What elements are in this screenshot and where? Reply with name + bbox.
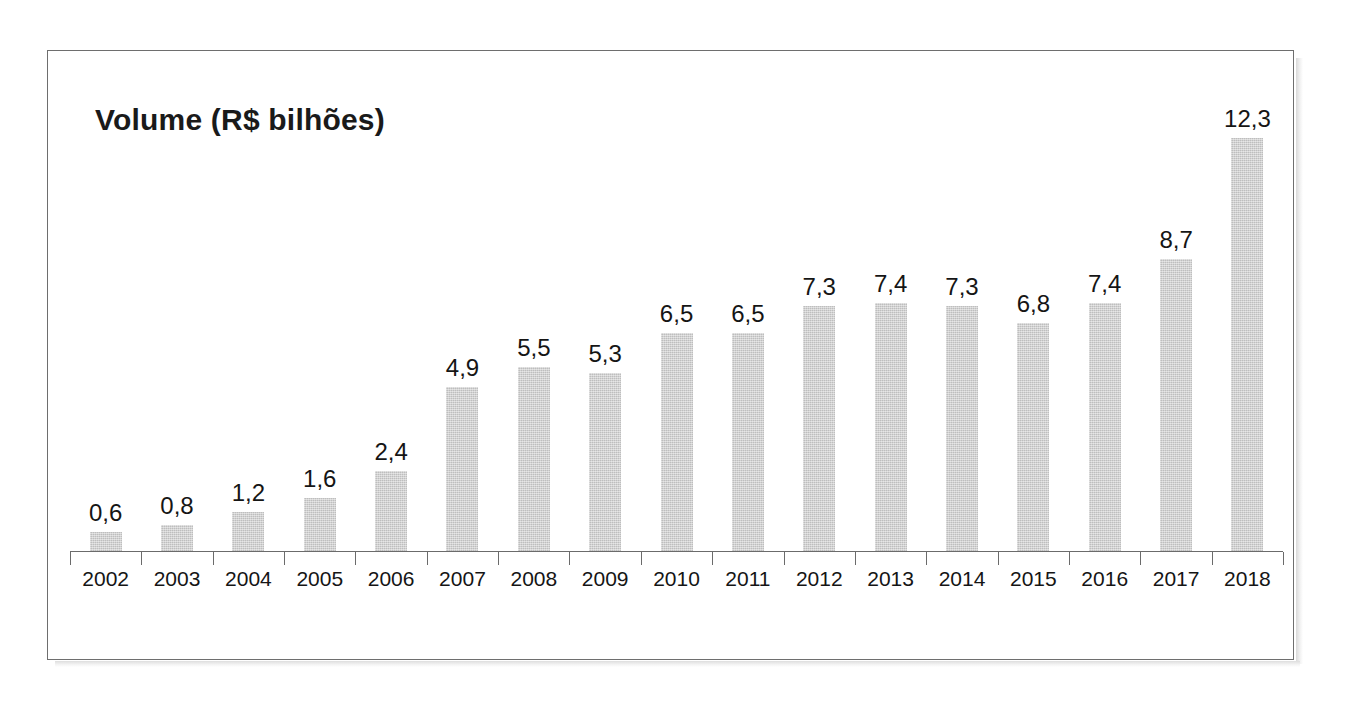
axis-tick xyxy=(569,552,570,565)
bar-column: 5,5 xyxy=(498,60,569,552)
year-label-2009: 2009 xyxy=(570,567,641,591)
bar-2004 xyxy=(232,512,264,552)
year-label-2008: 2008 xyxy=(498,567,569,591)
bar-column: 12,3 xyxy=(1212,60,1283,552)
bar-column: 6,5 xyxy=(712,60,783,552)
bar-column: 7,4 xyxy=(855,60,926,552)
axis-tick xyxy=(998,552,999,565)
bar-column: 5,3 xyxy=(570,60,641,552)
bars-container: 0,60,81,21,62,44,95,55,36,56,57,37,47,36… xyxy=(70,60,1283,552)
bar-value-label: 4,9 xyxy=(446,356,479,380)
x-axis-ticks xyxy=(70,552,1283,565)
bar-chart-figure: Volume (R$ bilhões) 0,60,81,21,62,44,95,… xyxy=(0,0,1348,707)
bar-value-label: 6,8 xyxy=(1017,292,1050,316)
bar-2007 xyxy=(446,387,478,552)
axis-tick xyxy=(284,552,285,565)
bar-column: 7,3 xyxy=(926,60,997,552)
year-label-2006: 2006 xyxy=(355,567,426,591)
bar-column: 1,2 xyxy=(213,60,284,552)
bar-value-label: 1,6 xyxy=(303,467,336,491)
axis-tick xyxy=(1140,552,1141,565)
axis-tick xyxy=(355,552,356,565)
year-label-2012: 2012 xyxy=(784,567,855,591)
axis-tick xyxy=(1212,552,1213,565)
year-label-2003: 2003 xyxy=(141,567,212,591)
year-label-2005: 2005 xyxy=(284,567,355,591)
bar-value-label: 6,5 xyxy=(731,302,764,326)
year-label-2002: 2002 xyxy=(70,567,141,591)
frame-shadow-right xyxy=(1296,58,1303,664)
bar-value-label: 0,8 xyxy=(160,494,193,518)
bar-value-label: 7,3 xyxy=(803,275,836,299)
bar-value-label: 1,2 xyxy=(232,481,265,505)
bar-2012 xyxy=(803,306,835,552)
year-label-2014: 2014 xyxy=(926,567,997,591)
bar-value-label: 5,3 xyxy=(589,342,622,366)
axis-tick xyxy=(498,552,499,565)
bar-2008 xyxy=(518,367,550,552)
axis-tick xyxy=(855,552,856,565)
axis-tick xyxy=(926,552,927,565)
year-label-2017: 2017 xyxy=(1140,567,1211,591)
bar-2014 xyxy=(946,306,978,552)
bar-value-label: 7,3 xyxy=(945,275,978,299)
bar-column: 7,4 xyxy=(1069,60,1140,552)
bar-column: 0,8 xyxy=(141,60,212,552)
bar-column: 6,5 xyxy=(641,60,712,552)
bar-2009 xyxy=(589,373,621,552)
bar-value-label: 8,7 xyxy=(1159,228,1192,252)
axis-tick xyxy=(641,552,642,565)
year-label-2018: 2018 xyxy=(1212,567,1283,591)
year-label-2013: 2013 xyxy=(855,567,926,591)
bar-column: 7,3 xyxy=(784,60,855,552)
axis-tick xyxy=(1069,552,1070,565)
axis-tick xyxy=(427,552,428,565)
bar-2015 xyxy=(1017,323,1049,552)
bar-2003 xyxy=(161,525,193,552)
bar-value-label: 5,5 xyxy=(517,336,550,360)
bar-value-label: 12,3 xyxy=(1224,107,1271,131)
axis-tick xyxy=(213,552,214,565)
bar-value-label: 6,5 xyxy=(660,302,693,326)
year-label-2011: 2011 xyxy=(712,567,783,591)
bar-value-label: 7,4 xyxy=(874,272,907,296)
year-label-2007: 2007 xyxy=(427,567,498,591)
axis-tick xyxy=(1283,552,1284,565)
year-label-2015: 2015 xyxy=(998,567,1069,591)
bar-2011 xyxy=(732,333,764,552)
frame-shadow-bottom xyxy=(55,661,1300,667)
bar-column: 4,9 xyxy=(427,60,498,552)
bar-column: 2,4 xyxy=(355,60,426,552)
bar-column: 8,7 xyxy=(1140,60,1211,552)
bar-2005 xyxy=(304,498,336,552)
bar-2002 xyxy=(90,532,122,552)
bar-column: 1,6 xyxy=(284,60,355,552)
axis-tick xyxy=(141,552,142,565)
bar-value-label: 7,4 xyxy=(1088,272,1121,296)
axis-tick xyxy=(712,552,713,565)
bar-column: 6,8 xyxy=(998,60,1069,552)
axis-tick xyxy=(70,552,71,565)
bar-2010 xyxy=(661,333,693,552)
bar-2016 xyxy=(1089,303,1121,552)
bar-value-label: 2,4 xyxy=(374,440,407,464)
bar-value-label: 0,6 xyxy=(89,501,122,525)
bar-2017 xyxy=(1160,259,1192,552)
bar-2018 xyxy=(1231,138,1263,552)
year-label-2016: 2016 xyxy=(1069,567,1140,591)
bar-column: 0,6 xyxy=(70,60,141,552)
axis-tick xyxy=(784,552,785,565)
year-label-2010: 2010 xyxy=(641,567,712,591)
year-label-2004: 2004 xyxy=(213,567,284,591)
x-axis-tick-labels: 2002200320042005200620072008200920102011… xyxy=(70,567,1283,591)
bar-2013 xyxy=(875,303,907,552)
bar-2006 xyxy=(375,471,407,552)
